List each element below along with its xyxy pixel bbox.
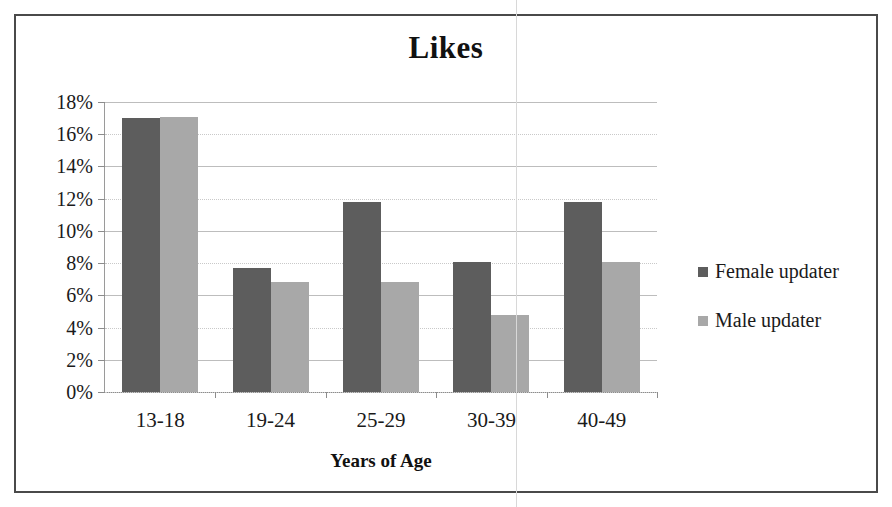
x-axis-tick [547,392,548,398]
x-axis-category-label: 25-29 [357,408,406,433]
bar-female-updater[interactable] [122,118,160,392]
x-axis-category-label: 13-18 [136,408,185,433]
y-axis-label: 4% [66,316,93,339]
bar-group: 13-18 [122,102,198,392]
bar-fill [343,202,381,392]
y-axis-tick [98,328,105,329]
y-axis-line [104,102,105,392]
bar-female-updater[interactable] [343,202,381,392]
bar-group: 19-24 [233,102,309,392]
chart-frame: Likes 0%2%4%6%8%10%12%14%16%18% 13-1819-… [14,14,878,493]
y-axis-label: 10% [56,219,93,242]
bar-fill [122,118,160,392]
chart-legend: Female updaterMale updater [698,260,839,358]
y-axis-label: 8% [66,252,93,275]
y-axis-label: 12% [56,187,93,210]
y-axis-tick [98,102,105,103]
x-axis-category-label: 40-49 [577,408,626,433]
bar-fill [233,268,271,392]
y-axis-tick [98,392,105,393]
bar-group: 30-39 [453,102,529,392]
x-axis-tick [215,392,216,398]
bar-fill [160,117,198,393]
legend-swatch-icon [698,267,708,277]
bar-group: 40-49 [564,102,640,392]
plot-area: 0%2%4%6%8%10%12%14%16%18% 13-1819-2425-2… [105,102,657,392]
y-axis-tick [98,166,105,167]
bar-female-updater[interactable] [233,268,271,392]
bar-male-updater[interactable] [491,315,529,392]
y-axis-tick [98,231,105,232]
bar-fill [381,282,419,392]
chart-title: Likes [16,30,876,66]
x-axis-category-label: 19-24 [246,408,295,433]
legend-label: Female updater [715,260,839,283]
bar-group: 25-29 [343,102,419,392]
y-axis-tick [98,263,105,264]
y-axis-label: 14% [56,155,93,178]
y-axis-label: 2% [66,348,93,371]
y-axis-tick [98,199,105,200]
bar-male-updater[interactable] [381,282,419,392]
y-axis-tick [98,295,105,296]
bar-female-updater[interactable] [453,262,491,393]
y-axis-label: 16% [56,123,93,146]
y-axis-label: 6% [66,284,93,307]
bar-fill [271,282,309,392]
y-axis-tick [98,134,105,135]
bar-fill [602,262,640,393]
x-axis-tick [436,392,437,398]
bar-fill [453,262,491,393]
legend-item[interactable]: Female updater [698,260,839,283]
x-axis-tick [326,392,327,398]
bar-fill [564,202,602,392]
x-axis-tick [657,392,658,398]
y-axis-label: 18% [56,91,93,114]
bar-fill [491,315,529,392]
legend-swatch-icon [698,316,708,326]
gridline [105,392,657,393]
bar-male-updater[interactable] [602,262,640,393]
legend-label: Male updater [715,309,821,332]
y-axis-tick [98,360,105,361]
bar-male-updater[interactable] [160,117,198,393]
bar-female-updater[interactable] [564,202,602,392]
legend-item[interactable]: Male updater [698,309,839,332]
bar-male-updater[interactable] [271,282,309,392]
y-axis-label: 0% [66,381,93,404]
x-axis-title: Years of Age [105,450,657,472]
x-axis-category-label: 30-39 [467,408,516,433]
